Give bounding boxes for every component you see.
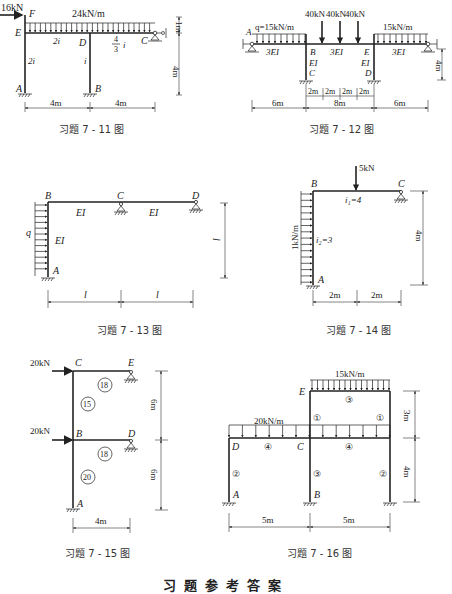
stiffness-label: ③ xyxy=(345,395,353,405)
node-label: F xyxy=(28,8,36,19)
load-label: 40kN xyxy=(326,9,347,19)
dimension-label: 4m xyxy=(402,466,412,478)
svg-text:18: 18 xyxy=(100,381,108,390)
distributed-load xyxy=(30,23,150,32)
svg-text:15: 15 xyxy=(83,400,91,409)
stiffness-label: ② xyxy=(379,469,387,479)
node-label: B xyxy=(310,47,316,57)
figure-7-16: 15kN/m 20kN/m E D C A B ③ ① ① ④ ④ ② ③ ② … xyxy=(222,369,420,559)
stiffness-label: EI xyxy=(54,235,65,246)
dimension-label: 4m xyxy=(50,98,62,108)
stiffness-circle: 15 xyxy=(81,397,95,411)
node-label: C xyxy=(117,190,124,201)
load-label: 1kN/m xyxy=(290,225,300,250)
node-label: A xyxy=(232,489,240,500)
figure-7-11: 16kN F 24kN/m E D C A B 2i 2i i 4 3 i 1m… xyxy=(0,2,184,135)
stiffness-label: i xyxy=(84,56,87,66)
distributed-load xyxy=(257,34,426,43)
stiffness-label: ① xyxy=(313,413,321,423)
svg-text:20: 20 xyxy=(83,473,91,482)
dimension-label: 6m xyxy=(272,98,284,108)
node-label: A xyxy=(15,83,23,94)
node-label: C xyxy=(309,68,316,78)
stiffness-label: 3EI xyxy=(265,47,280,57)
stiffness-label: EI xyxy=(75,207,86,218)
node-label: A xyxy=(245,27,252,37)
dimension-label: 2m xyxy=(329,290,341,300)
load-label: 40kN xyxy=(305,9,326,19)
stiffness-label: EI xyxy=(148,207,159,218)
node-label: C xyxy=(297,441,304,452)
dimension-label: 2m xyxy=(325,87,336,96)
node-label: D xyxy=(127,428,136,439)
stiffness-circle: 20 xyxy=(81,470,95,484)
distributed-load xyxy=(301,194,312,282)
dimension-label: 8m xyxy=(334,98,346,108)
node-label: D xyxy=(231,441,240,452)
node-label: E xyxy=(127,357,134,368)
section-title: 习题参考答案 xyxy=(0,575,452,594)
stiffness-label: ① xyxy=(376,413,384,423)
dimension-label: 6m xyxy=(149,469,159,481)
dimension-label: 3m xyxy=(402,410,412,422)
stiffness-circle: 18 xyxy=(98,378,112,392)
figure-7-15: 20kN 20kN C E B D A 18 15 18 20 6m 6m 4m… xyxy=(30,357,168,559)
stiffness-circle: 18 xyxy=(98,447,112,461)
dimension-label: 1m xyxy=(174,21,184,33)
load-label: 15kN/m xyxy=(335,369,365,379)
figure-caption: 习题 7 - 15 图 xyxy=(65,548,130,559)
stiffness-label: i₁=4 xyxy=(345,195,362,205)
dimension-label: l xyxy=(84,289,87,300)
node-label: C xyxy=(398,178,405,189)
dimension-label: 4m xyxy=(95,516,107,526)
figure-caption: 习题 7 - 16 图 xyxy=(287,548,352,559)
figure-caption: 习题 7 - 12 图 xyxy=(309,124,374,135)
node-label: B xyxy=(311,178,317,189)
stiffness-label: 3EI xyxy=(391,47,406,57)
load-label: 24kN/m xyxy=(72,8,105,19)
load-label: 20kN/m xyxy=(254,416,284,426)
load-label: q xyxy=(26,227,31,238)
dimension-label: 2m xyxy=(371,290,383,300)
node-label: B xyxy=(76,428,82,439)
node-label: E xyxy=(363,47,370,57)
node-label: B xyxy=(314,489,320,500)
node-label: A xyxy=(52,265,60,276)
figure-caption: 习题 7 - 11 图 xyxy=(59,124,124,135)
dimension-label: 6m xyxy=(149,399,159,411)
load-label: q=15kN/m xyxy=(255,22,294,32)
node-label: D xyxy=(364,68,372,78)
dimension-label: 6m xyxy=(394,98,406,108)
stiffness-label: ③ xyxy=(313,469,321,479)
stiffness-label: ④ xyxy=(345,442,353,452)
load-label: 40kN xyxy=(345,9,366,19)
distributed-load xyxy=(35,205,47,269)
stiffness-label: EI xyxy=(360,58,370,68)
dimension-label: l xyxy=(211,238,222,241)
node-label: C xyxy=(75,357,82,368)
svg-text:18: 18 xyxy=(100,450,108,459)
figure-7-14: 5kN B C A i₁=4 i₂=3 1kN/m 4m 2m 2m 习题 7 … xyxy=(290,163,428,336)
figure-7-12: q=15kN/m 40kN 40kN 40kN 15kN/m A B C E D… xyxy=(243,9,446,135)
node-label: E xyxy=(14,27,21,38)
stiffness-label: i₂=3 xyxy=(316,235,333,245)
dimension-label: 5m xyxy=(343,515,355,525)
figures-canvas: 16kN F 24kN/m E D C A B 2i 2i i 4 3 i 1m… xyxy=(0,0,452,594)
dimension-label: 4m xyxy=(115,98,127,108)
dimension-label: 4m xyxy=(414,230,424,242)
node-label: A xyxy=(317,274,325,285)
load-label: 15kN/m xyxy=(383,22,413,32)
stiffness-label: ② xyxy=(232,469,240,479)
stiffness-denominator: 3 xyxy=(114,45,118,54)
stiffness-label: 3EI xyxy=(329,47,344,57)
dimension-label: 2m xyxy=(359,87,370,96)
figure-7-13: B C D A q EI EI EI l l l 习题 7 - 13 图 xyxy=(26,190,228,336)
node-label: B xyxy=(95,83,101,94)
figure-caption: 习题 7 - 13 图 xyxy=(97,325,162,336)
node-label: B xyxy=(45,190,51,201)
node-label: D xyxy=(191,190,200,201)
stiffness-numerator: 4 xyxy=(114,35,118,44)
dimension-label: l xyxy=(156,289,159,300)
stiffness-label: 2i xyxy=(28,56,36,66)
load-label: 5kN xyxy=(359,163,375,173)
